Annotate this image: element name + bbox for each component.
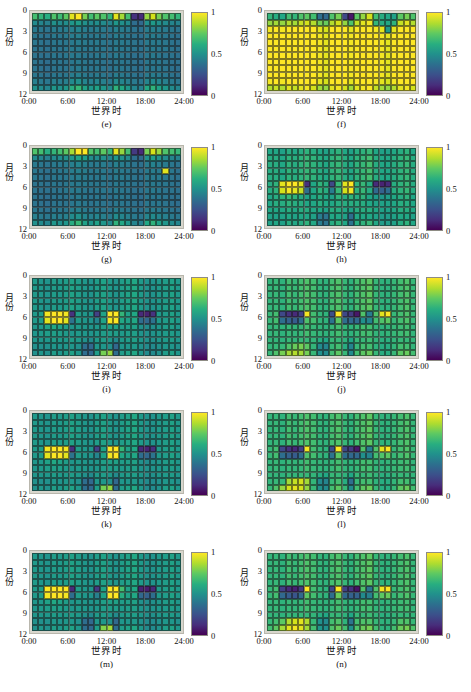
y-tick-label: 6 <box>23 313 27 322</box>
x-axis-label: 世界时 <box>264 371 419 382</box>
x-tick-label: 6:00 <box>295 96 310 106</box>
x-tick-label: 0:00 <box>256 231 271 241</box>
heatmap-plot-area <box>264 550 419 634</box>
figure-bottom-note <box>0 684 471 692</box>
y-tick-label: 0 <box>23 141 27 150</box>
x-tick-label: 18:00 <box>371 636 390 646</box>
colorbar-ticks: 10.50 <box>446 147 466 231</box>
colorbar-tick-label: 1 <box>211 8 215 17</box>
colorbar-tick-label: 0.5 <box>446 450 457 459</box>
x-tick-label: 6:00 <box>60 96 75 106</box>
x-tick-label: 0:00 <box>21 636 36 646</box>
colorbar-tick-label: 0.5 <box>446 185 457 194</box>
colorbar-tick-label: 0.5 <box>211 450 222 459</box>
heatmap-cell <box>175 350 181 357</box>
x-axis-label: 世界时 <box>264 506 419 517</box>
heatmap-cell <box>410 85 416 92</box>
x-axis-label: 世界时 <box>29 241 184 252</box>
y-tick-label: 6 <box>23 183 27 192</box>
y-tick-label: 6 <box>23 588 27 597</box>
x-tick-label: 0:00 <box>256 636 271 646</box>
y-tick-label: 3 <box>258 567 262 576</box>
colorbar-tick-label: 0.5 <box>211 315 222 324</box>
x-tick-label: 18:00 <box>136 636 155 646</box>
y-tick-label: 3 <box>23 162 27 171</box>
colorbar-gradient <box>426 552 443 636</box>
subplot-panel: 月份0369120:006:0012:0018:0024:00世界时(k)10.… <box>0 400 235 540</box>
x-tick-label: 0:00 <box>21 96 36 106</box>
colorbar: 10.50 <box>191 12 231 96</box>
y-axis-ticks: 036912 <box>14 550 28 634</box>
x-axis-label: 世界时 <box>264 106 419 117</box>
heatmap-cell <box>175 85 181 92</box>
colorbar-tick-label: 0 <box>211 227 215 236</box>
x-tick-label: 18:00 <box>136 96 155 106</box>
subplot-panel: 月份0369120:006:0012:0018:0024:00世界时(l)10.… <box>235 400 471 540</box>
y-tick-label: 6 <box>258 313 262 322</box>
x-tick-label: 24:00 <box>409 496 428 506</box>
colorbar-tick-label: 1 <box>211 548 215 557</box>
y-axis-label: 月份 <box>237 163 249 181</box>
subplot-panel: 月份0369120:006:0012:0018:0024:00世界时(m)10.… <box>0 540 235 692</box>
x-tick-label: 18:00 <box>136 231 155 241</box>
y-axis-ticks: 036912 <box>249 275 263 359</box>
heatmap-grid <box>267 278 416 356</box>
y-tick-label: 9 <box>258 204 262 213</box>
heatmap-plot-area <box>264 10 419 94</box>
heatmap-grid <box>267 13 416 91</box>
y-tick-label: 6 <box>258 588 262 597</box>
y-axis-label: 月份 <box>237 293 249 311</box>
panel-caption: (h) <box>264 254 419 264</box>
x-axis-label: 世界时 <box>29 646 184 657</box>
y-axis-label: 月份 <box>2 568 14 586</box>
colorbar-ticks: 10.50 <box>211 147 231 231</box>
y-tick-label: 9 <box>23 469 27 478</box>
heatmap-plot-area <box>29 275 184 359</box>
heatmap-grid <box>32 13 181 91</box>
y-tick-label: 3 <box>23 292 27 301</box>
x-tick-label: 0:00 <box>21 361 36 371</box>
heatmap-plot-area <box>264 410 419 494</box>
x-tick-label: 18:00 <box>371 361 390 371</box>
y-tick-label: 3 <box>258 162 262 171</box>
y-tick-label: 9 <box>23 204 27 213</box>
y-axis-label: 月份 <box>2 428 14 446</box>
y-axis-ticks: 036912 <box>14 410 28 494</box>
colorbar-ticks: 10.50 <box>446 277 466 361</box>
y-tick-label: 3 <box>23 567 27 576</box>
x-tick-label: 24:00 <box>174 636 193 646</box>
x-tick-label: 12:00 <box>332 231 351 241</box>
x-tick-label: 6:00 <box>60 496 75 506</box>
y-tick-label: 9 <box>258 609 262 618</box>
heatmap-plot-area <box>29 10 184 94</box>
x-tick-label: 6:00 <box>60 361 75 371</box>
y-tick-label: 0 <box>258 141 262 150</box>
y-axis-ticks: 036912 <box>249 410 263 494</box>
colorbar-tick-label: 0 <box>211 492 215 501</box>
heatmap-cell <box>175 625 181 632</box>
colorbar-tick-label: 1 <box>446 408 450 417</box>
heatmap-grid <box>32 413 181 491</box>
x-tick-label: 18:00 <box>371 231 390 241</box>
y-tick-label: 3 <box>258 427 262 436</box>
x-tick-label: 6:00 <box>60 231 75 241</box>
colorbar-tick-label: 0.5 <box>211 185 222 194</box>
x-tick-label: 12:00 <box>332 636 351 646</box>
x-tick-label: 24:00 <box>409 96 428 106</box>
colorbar-tick-label: 1 <box>211 143 215 152</box>
heatmap-grid <box>267 148 416 226</box>
panel-caption: (k) <box>29 519 184 529</box>
colorbar-tick-label: 1 <box>446 548 450 557</box>
x-tick-label: 12:00 <box>332 496 351 506</box>
y-axis-ticks: 036912 <box>14 145 28 229</box>
colorbar: 10.50 <box>426 412 466 496</box>
colorbar-tick-label: 1 <box>446 273 450 282</box>
colorbar: 10.50 <box>426 277 466 361</box>
colorbar-ticks: 10.50 <box>211 12 231 96</box>
heatmap-grid <box>32 148 181 226</box>
colorbar-gradient <box>426 12 443 96</box>
colorbar-gradient <box>191 412 208 496</box>
heatmap-plot-area <box>264 145 419 229</box>
x-tick-label: 0:00 <box>256 496 271 506</box>
x-tick-label: 24:00 <box>409 231 428 241</box>
